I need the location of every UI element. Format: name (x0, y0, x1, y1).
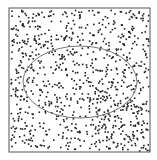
scatter-points (11, 10, 151, 152)
random-points-diagram (0, 0, 157, 160)
region-ellipse (23, 46, 137, 118)
